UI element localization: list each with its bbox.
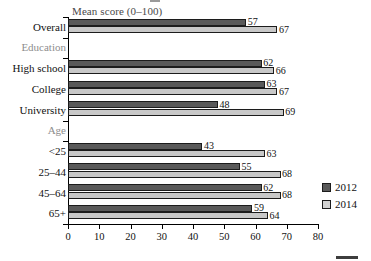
category-label: <25 <box>49 146 66 157</box>
bar-2014[interactable] <box>68 67 274 74</box>
legend-label: 2014 <box>335 198 357 210</box>
x-axis-tick-label: 70 <box>282 231 293 242</box>
x-axis-tick-label: 40 <box>188 231 199 242</box>
legend-label: 2012 <box>335 181 357 193</box>
bar-2012[interactable] <box>68 81 265 88</box>
bar-2012[interactable] <box>68 143 202 150</box>
x-axis-tick-label: 10 <box>94 231 105 242</box>
category-label: 65+ <box>49 208 66 219</box>
bar-value-label: 69 <box>285 107 295 117</box>
scan-artifact-top <box>150 0 160 2</box>
x-axis-tick <box>99 225 100 229</box>
bar-value-label: 68 <box>282 169 292 179</box>
x-axis-tick-label: 60 <box>250 231 261 242</box>
bar-2012[interactable] <box>68 60 262 67</box>
x-axis-tick <box>256 225 257 229</box>
bar-2014[interactable] <box>68 212 268 219</box>
category-label: University <box>20 105 66 116</box>
bar-value-label: 67 <box>279 87 289 97</box>
x-axis-tick <box>224 225 225 229</box>
x-axis-tick <box>193 225 194 229</box>
bar-2014[interactable] <box>68 192 281 199</box>
bar-value-label: 67 <box>279 25 289 35</box>
category-label: 25–44 <box>39 167 67 178</box>
bar-2012[interactable] <box>68 101 218 108</box>
light-gray-swatch-icon <box>322 200 331 209</box>
category-label: High school <box>13 63 66 74</box>
scan-artifact-bottom <box>336 256 358 259</box>
bar-value-label: 63 <box>266 149 276 159</box>
bar-2014[interactable] <box>68 150 265 157</box>
bar-chart: Mean score (0–100) 01020304050607080 201… <box>0 0 371 261</box>
category-label: Age <box>48 125 66 136</box>
dark-gray-swatch-icon <box>322 183 331 192</box>
bar-2014[interactable] <box>68 26 277 33</box>
bar-2012[interactable] <box>68 163 240 170</box>
bar-value-label: 66 <box>276 66 286 76</box>
category-label: College <box>32 84 66 95</box>
x-axis-tick <box>131 225 132 229</box>
bar-value-label: 64 <box>270 211 280 221</box>
x-axis-tick <box>162 225 163 229</box>
bar-2012[interactable] <box>68 19 246 26</box>
bar-2012[interactable] <box>68 184 262 191</box>
category-label: Overall <box>33 22 66 33</box>
chart-title: Mean score (0–100) <box>72 5 162 17</box>
x-axis-tick <box>318 225 319 229</box>
bar-2014[interactable] <box>68 171 281 178</box>
category-label: Education <box>21 42 66 53</box>
y-axis-tick <box>63 121 69 122</box>
bar-value-label: 68 <box>282 190 292 200</box>
x-axis-tick-label: 20 <box>125 231 136 242</box>
x-axis-tick <box>68 225 69 229</box>
x-axis-tick-label: 0 <box>65 231 70 242</box>
category-label: 45–64 <box>39 188 67 199</box>
x-axis-tick-label: 80 <box>313 231 324 242</box>
x-axis-tick-label: 30 <box>157 231 168 242</box>
x-axis-tick-label: 50 <box>219 231 230 242</box>
bar-2014[interactable] <box>68 109 284 116</box>
bar-2014[interactable] <box>68 88 277 95</box>
x-axis-tick <box>287 225 288 229</box>
bar-2012[interactable] <box>68 205 252 212</box>
y-axis-tick <box>63 38 69 39</box>
